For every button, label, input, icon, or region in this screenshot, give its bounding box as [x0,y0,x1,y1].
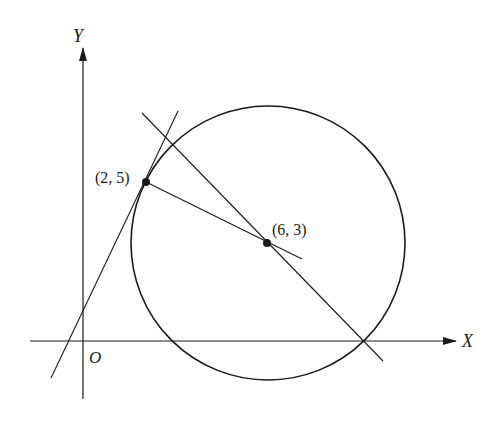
x-axis-label: X [461,331,474,351]
origin-label: O [89,348,101,367]
tangent-line [51,111,178,378]
point-tangent [142,178,150,186]
y-axis-label: Y [73,26,85,46]
coordinate-diagram: Y X O (2, 5) (6, 3) [0,0,501,422]
secant-line [142,113,383,361]
point-label-tangent: (2, 5) [95,169,130,187]
point-center [263,239,271,247]
point-label-center: (6, 3) [272,221,307,239]
